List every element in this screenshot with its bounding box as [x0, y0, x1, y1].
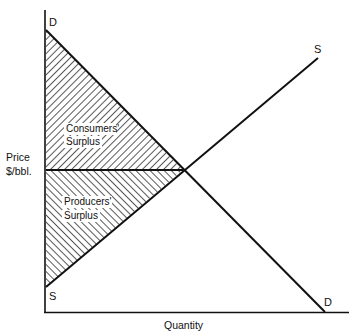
producers-surplus-label-line1: Producers': [64, 196, 112, 207]
y-axis-label-line1: Price: [6, 151, 30, 163]
supply-label-start: S: [49, 290, 56, 302]
consumers-surplus-label-line2: Surplus: [66, 136, 100, 147]
producers-surplus-label-line2: Surplus: [64, 210, 98, 221]
demand-label-start: D: [49, 16, 57, 28]
supply-label-end: S: [314, 43, 321, 55]
y-axis-label-line2: $/bbl.: [6, 165, 32, 177]
x-axis-label: Quantity: [164, 319, 204, 331]
supply-demand-diagram: D D S S Consumers' Surplus Producers' Su…: [0, 0, 356, 336]
consumers-surplus-label-line1: Consumers': [66, 123, 119, 134]
demand-label-end: D: [324, 296, 332, 308]
